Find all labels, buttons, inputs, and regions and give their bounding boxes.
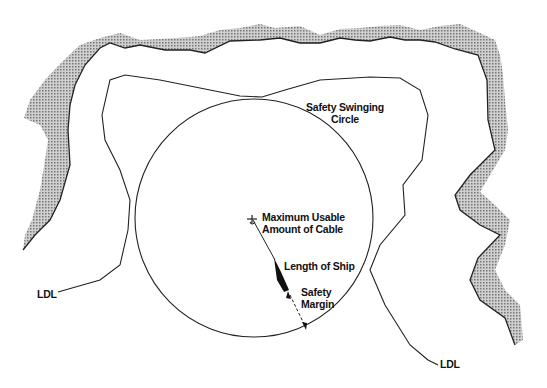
label-line: Margin: [301, 298, 334, 310]
label-line: Amount of Cable: [262, 223, 345, 235]
label-line: Safety Swinging: [290, 101, 400, 113]
anchorage-diagram: Safety Swinging Circle Maximum Usable Am…: [0, 0, 547, 388]
ship-length-label: Length of Ship: [284, 260, 355, 272]
ldl-label-left: LDL: [37, 288, 57, 300]
safety-margin-label: Safety Margin: [301, 286, 334, 310]
label-line: Maximum Usable: [262, 211, 345, 223]
ldl-label-right: LDL: [440, 358, 460, 370]
diagram-canvas: [0, 0, 547, 388]
anchor-icon: [247, 215, 257, 224]
shoreline: [23, 24, 523, 345]
cable-label: Maximum Usable Amount of Cable: [262, 211, 345, 235]
swinging-circle-label: Safety Swinging Circle: [290, 101, 400, 125]
label-line: Circle: [290, 113, 400, 125]
label-line: Safety: [301, 286, 334, 298]
